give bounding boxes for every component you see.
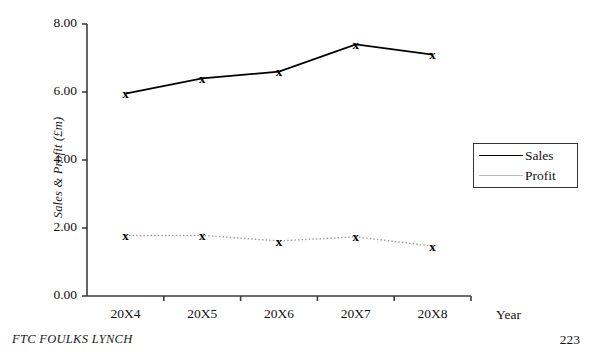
x-axis-title: Year [496, 307, 521, 323]
legend-label-sales: Sales [525, 148, 554, 164]
legend-item-profit: Profit [474, 165, 579, 186]
footer-page-number: 223 [560, 332, 580, 348]
legend-label-profit: Profit [525, 168, 556, 184]
chart-figure: xxxxx xxxxx Sales & Profit (£m) 0.002.00… [0, 0, 592, 330]
y-axis-tick-label: 0.00 [25, 287, 77, 303]
series-markers-profit: xxxxx [122, 228, 436, 254]
y-axis-tick-label: 2.00 [25, 219, 77, 235]
data-point-marker: x [429, 47, 436, 62]
x-axis-tick-label: 20X4 [87, 306, 163, 322]
data-point-marker: x [122, 86, 129, 101]
data-point-marker: x [276, 234, 283, 249]
x-axis-tick-label: 20X8 [395, 306, 471, 322]
footer-source-text: FTC FOULKS LYNCH [12, 332, 133, 347]
data-point-marker: x [429, 239, 436, 254]
data-point-marker: x [199, 71, 206, 86]
data-point-marker: x [353, 37, 360, 52]
chart-legend: Sales Profit [473, 143, 578, 188]
legend-swatch-profit-icon [479, 175, 523, 176]
series-markers-sales: xxxxx [122, 37, 436, 101]
y-axis-tick-label: 8.00 [25, 15, 77, 31]
data-point-marker: x [276, 64, 283, 79]
x-axis-tick-label: 20X6 [241, 306, 317, 322]
legend-item-sales: Sales [474, 145, 579, 166]
data-point-marker: x [353, 229, 360, 244]
y-axis-tick-label: 6.00 [25, 83, 77, 99]
data-point-marker: x [199, 228, 206, 243]
x-axis-tick-label: 20X7 [318, 306, 394, 322]
data-point-marker: x [122, 228, 129, 243]
y-axis-tick-label: 4.00 [25, 151, 77, 167]
legend-swatch-sales-icon [479, 155, 523, 156]
document-page: xxxxx xxxxx Sales & Profit (£m) 0.002.00… [0, 0, 592, 358]
page-footer: FTC FOULKS LYNCH 223 [0, 330, 592, 358]
x-axis-tick-label: 20X5 [164, 306, 240, 322]
